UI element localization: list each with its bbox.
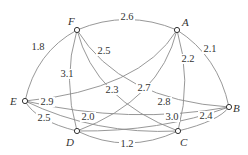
edge-e-a xyxy=(25,30,177,101)
node-label-a: A xyxy=(181,16,189,28)
edge-weight-label: 2.9 xyxy=(40,96,53,107)
edge-weight-label: 1.2 xyxy=(120,138,133,149)
edge-weight-label: 3.1 xyxy=(60,68,73,79)
edge-f-d xyxy=(70,30,78,131)
edge-weight-label: 2.5 xyxy=(37,112,50,123)
node-label-f: F xyxy=(67,15,75,27)
edge-weight-label: 2.1 xyxy=(203,43,216,54)
edge-weight-label: 1.8 xyxy=(31,41,44,52)
edge-weight-label: 2.3 xyxy=(105,84,118,95)
node-b xyxy=(226,104,231,109)
node-label-d: D xyxy=(65,136,74,148)
weighted-graph: 2.61.82.12.51.22.42.92.53.12.32.72.22.82… xyxy=(0,0,248,155)
node-label-b: B xyxy=(233,102,240,114)
node-d xyxy=(74,128,79,133)
node-e xyxy=(22,98,27,103)
edge-weight-label: 3.0 xyxy=(165,111,178,122)
edge-weight-label: 2.0 xyxy=(81,111,94,122)
edges-group xyxy=(25,20,229,144)
node-a xyxy=(174,27,179,32)
node-label-e: E xyxy=(9,95,17,107)
edge-weight-label: 2.4 xyxy=(199,110,213,121)
edge-weight-label: 2.7 xyxy=(137,82,150,93)
edge-weight-label: 2.6 xyxy=(120,11,133,22)
nodes-group: FAEBDC xyxy=(9,15,240,148)
edge-weight-label: 2.8 xyxy=(157,96,170,107)
node-c xyxy=(175,128,180,133)
node-f xyxy=(74,27,79,32)
edge-weight-label: 2.5 xyxy=(97,45,110,56)
edge-f-b xyxy=(77,30,229,107)
node-label-c: C xyxy=(180,136,188,148)
edge-a-b xyxy=(177,30,229,107)
edge-weight-label: 2.2 xyxy=(181,53,194,64)
